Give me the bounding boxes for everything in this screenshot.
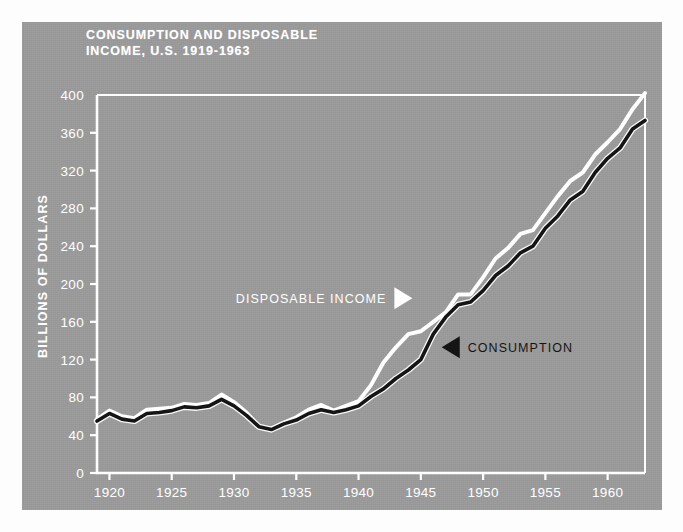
annotation-layer: DISPOSABLE INCOMECONSUMPTION	[236, 287, 573, 358]
chart-plot-svg: 04080120160200240280320360400 1920192519…	[0, 0, 683, 532]
y-tick-label: 120	[61, 353, 84, 368]
y-axis-ticks: 04080120160200240280320360400	[61, 88, 97, 481]
y-axis-title: BILLIONS OF DOLLARS	[36, 194, 50, 358]
y-tick-label: 360	[61, 126, 84, 141]
x-tick-label: 1925	[156, 485, 187, 500]
x-tick-label: 1940	[343, 485, 374, 500]
series-layer	[97, 93, 645, 429]
y-tick-label: 40	[68, 428, 84, 443]
series-line-disposable-income	[97, 93, 645, 429]
x-tick-label: 1955	[530, 485, 561, 500]
chart-figure: CONSUMPTION AND DISPOSABLE INCOME, U.S. …	[0, 0, 683, 532]
series-annotation-label: DISPOSABLE INCOME	[236, 292, 387, 306]
x-tick-label: 1930	[218, 485, 249, 500]
x-tick-label: 1935	[281, 485, 312, 500]
x-tick-label: 1960	[592, 485, 623, 500]
y-tick-label: 240	[61, 239, 84, 254]
y-tick-label: 80	[68, 390, 84, 405]
pointer-triangle-right-icon	[394, 287, 412, 309]
x-tick-label: 1945	[405, 485, 436, 500]
x-tick-label: 1950	[467, 485, 498, 500]
y-tick-label: 320	[61, 164, 84, 179]
pointer-triangle-left-icon	[442, 336, 460, 358]
y-tick-label: 400	[61, 88, 84, 103]
axis-frame	[97, 95, 645, 473]
y-tick-label: 280	[61, 201, 84, 216]
series-annotation-label: CONSUMPTION	[468, 341, 573, 355]
x-axis-ticks: 192019251930193519401945195019551960	[94, 473, 623, 500]
y-tick-label: 160	[61, 315, 84, 330]
x-tick-label: 1920	[94, 485, 125, 500]
y-tick-label: 200	[61, 277, 84, 292]
y-tick-label: 0	[76, 466, 84, 481]
